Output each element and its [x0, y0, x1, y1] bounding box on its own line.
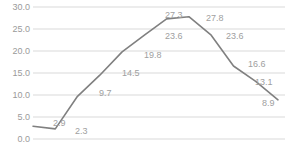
- data-label-3: 9.7: [99, 89, 112, 98]
- plot-area: [0, 0, 290, 151]
- data-label-11: 13.1: [255, 78, 273, 87]
- data-label-1: 2.9: [53, 119, 66, 128]
- gridlines: [33, 7, 285, 139]
- data-label-4: 14.5: [122, 69, 140, 78]
- data-label-7: 27.3: [165, 11, 183, 20]
- data-label-5: 19.8: [144, 51, 162, 60]
- data-label-10: 16.6: [248, 60, 266, 69]
- data-label-9: 23.6: [226, 32, 244, 41]
- line-chart: 30.0 25.0 20.0 15.0 10.0 5.0 0.0 2.9 2.3…: [0, 0, 290, 151]
- data-label-2: 2.3: [75, 127, 88, 136]
- data-label-8: 27.8: [206, 14, 224, 23]
- data-label-12: 8.9: [262, 99, 275, 108]
- data-label-6: 23.6: [165, 32, 183, 41]
